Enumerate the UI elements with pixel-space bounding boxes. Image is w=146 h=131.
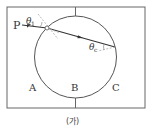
label-region-c: C [112,82,120,93]
label-p: P [13,19,21,32]
theta1-arc [40,22,42,27]
entry-point-marker [45,26,49,30]
arrow-icon [77,35,83,38]
caption: (가) [66,117,79,126]
label-region-a: A [28,82,37,93]
normal-line-exit [98,47,115,51]
optics-diagram: P θ 1 θ c A B C (가) [0,0,146,131]
label-thetac-sub: c [94,46,98,53]
label-theta1-sub: 1 [31,20,35,27]
label-region-b: B [71,82,78,93]
